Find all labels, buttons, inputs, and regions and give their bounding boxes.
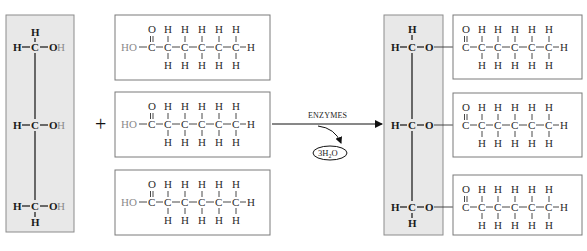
svg-text:H: H [545, 101, 553, 113]
svg-text:O: O [462, 183, 470, 195]
svg-text:H: H [164, 23, 172, 35]
svg-text:C: C [181, 41, 188, 53]
product-chain-3: C O C C C C C H H H H H H H H H H H [453, 175, 582, 235]
svg-text:H: H [478, 59, 486, 71]
svg-text:H: H [198, 214, 206, 226]
svg-text:H: H [494, 219, 502, 231]
svg-text:C: C [198, 196, 205, 208]
svg-text:C: C [148, 196, 155, 208]
product-chain-1: C O C C C C C H H H H H H H H H H H [453, 15, 582, 79]
svg-text:H: H [215, 23, 223, 35]
svg-text:H: H [528, 101, 536, 113]
svg-text:C: C [215, 41, 222, 53]
svg-text:H: H [181, 178, 189, 190]
svg-text:H: H [13, 200, 22, 212]
svg-text:C: C [198, 118, 205, 130]
svg-text:H: H [478, 183, 486, 195]
svg-text:H: H [247, 196, 255, 208]
svg-text:C: C [528, 41, 535, 53]
svg-text:O: O [462, 101, 470, 113]
svg-text:H: H [247, 118, 255, 130]
svg-text:H: H [494, 183, 502, 195]
svg-text:H: H [198, 136, 206, 148]
svg-text:H: H [528, 23, 536, 35]
svg-text:O: O [462, 23, 470, 35]
svg-text:H: H [560, 201, 568, 213]
svg-text:H: H [57, 41, 65, 53]
svg-text:C: C [494, 41, 501, 53]
svg-text:C: C [511, 41, 518, 53]
svg-text:H: H [408, 23, 417, 35]
water-byproduct-label: 3H2O [318, 148, 338, 159]
svg-text:C: C [478, 119, 485, 131]
product-glycerol-backbone: H H C O H C O H C O H [384, 15, 461, 235]
svg-text:H: H [31, 216, 40, 228]
svg-text:C: C [232, 41, 239, 53]
curved-arrow-icon [318, 126, 341, 143]
svg-text:H: H [164, 178, 172, 190]
svg-text:H: H [13, 119, 22, 131]
svg-text:H: H [181, 100, 189, 112]
fatty-acid-3: HO C O C C C C C H H H H H H H H H H H [115, 170, 270, 235]
svg-text:C: C [215, 196, 222, 208]
svg-text:H: H [198, 59, 206, 71]
svg-text:H: H [181, 214, 189, 226]
svg-text:H: H [511, 23, 519, 35]
enzymes-label: ENZYMES [308, 111, 347, 120]
svg-text:H: H [528, 183, 536, 195]
svg-text:C: C [528, 119, 535, 131]
svg-text:C: C [232, 118, 239, 130]
svg-text:H: H [181, 59, 189, 71]
svg-text:H: H [215, 100, 223, 112]
svg-text:C: C [528, 201, 535, 213]
svg-text:H: H [408, 217, 417, 229]
svg-text:H: H [545, 137, 553, 149]
svg-text:O: O [425, 41, 434, 53]
svg-text:C: C [148, 41, 155, 53]
svg-text:H: H [164, 100, 172, 112]
svg-text:H: H [528, 137, 536, 149]
svg-text:H: H [478, 137, 486, 149]
fatty-acid-1: HO C O C C C C C H H H H H H H H H H H [115, 15, 270, 80]
svg-text:C: C [408, 41, 416, 53]
svg-text:C: C [31, 200, 39, 212]
svg-text:C: C [215, 118, 222, 130]
svg-text:H: H [181, 136, 189, 148]
svg-text:C: C [181, 196, 188, 208]
svg-text:C: C [408, 119, 416, 131]
svg-text:H: H [560, 119, 568, 131]
svg-text:H: H [545, 23, 553, 35]
svg-text:H: H [198, 100, 206, 112]
svg-text:H: H [545, 219, 553, 231]
svg-text:H: H [528, 59, 536, 71]
svg-text:C: C [148, 118, 155, 130]
triglyceride-diagram: H H C O H H C O H H C O H H + HO C O [0, 0, 587, 251]
svg-text:C: C [545, 41, 552, 53]
svg-text:H: H [215, 136, 223, 148]
svg-text:C: C [31, 41, 39, 53]
svg-text:H: H [391, 41, 400, 53]
svg-text:C: C [181, 118, 188, 130]
svg-text:H: H [164, 136, 172, 148]
svg-text:H: H [232, 23, 240, 35]
plus-sign: + [95, 113, 106, 135]
svg-text:C: C [478, 41, 485, 53]
svg-text:C: C [462, 41, 469, 53]
svg-text:O: O [148, 23, 156, 35]
svg-text:H: H [57, 119, 65, 131]
svg-text:C: C [164, 41, 171, 53]
svg-text:H: H [528, 219, 536, 231]
svg-text:C: C [462, 201, 469, 213]
svg-text:C: C [462, 119, 469, 131]
svg-text:H: H [164, 59, 172, 71]
svg-text:H: H [391, 201, 400, 213]
svg-text:H: H [511, 59, 519, 71]
svg-text:H: H [181, 23, 189, 35]
svg-text:H: H [511, 183, 519, 195]
svg-text:O: O [425, 201, 434, 213]
svg-text:C: C [198, 41, 205, 53]
svg-text:C: C [494, 119, 501, 131]
glycerol-top-h: H [31, 26, 40, 38]
svg-text:H: H [232, 178, 240, 190]
svg-text:H: H [215, 178, 223, 190]
